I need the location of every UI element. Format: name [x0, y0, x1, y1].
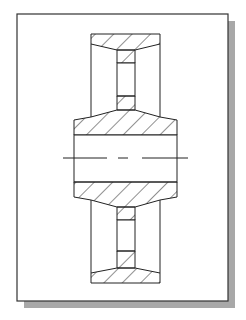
web-bottom-slot: [117, 220, 135, 251]
web-bottom-lower: [117, 251, 135, 268]
web-top-upper: [117, 50, 135, 63]
pulley-section-drawing: [0, 0, 246, 320]
web-top-lower: [117, 96, 135, 110]
web-bottom-upper: [117, 207, 135, 220]
web-top-slot: [117, 63, 135, 96]
